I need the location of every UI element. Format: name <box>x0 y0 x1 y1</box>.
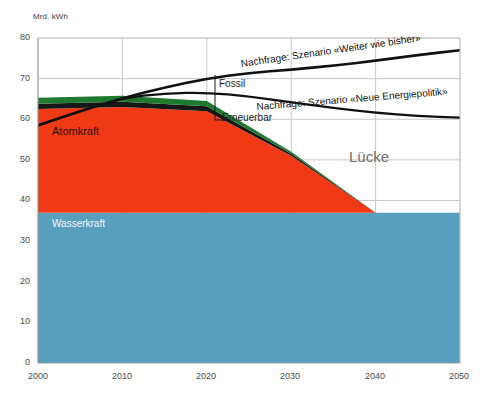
callout-label-erneuerbar: Erneuerbar <box>222 112 272 123</box>
energy-gap-area-chart: Mrd. kWh 80 70 60 50 40 30 20 10 0 2000 … <box>0 0 481 401</box>
area-wasserkraft <box>38 213 460 363</box>
area-label-wasserkraft: Wasserkraft <box>52 218 105 229</box>
callout-label-fossil: Fossil <box>219 78 245 89</box>
gap-label-luecke: Lücke <box>349 148 389 165</box>
area-label-atomkraft: Atomkraft <box>52 125 99 137</box>
